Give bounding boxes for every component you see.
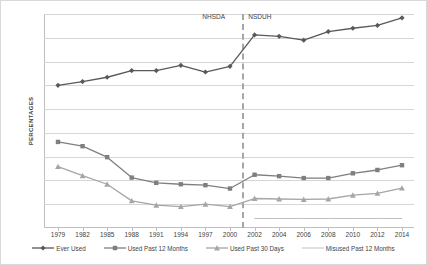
data-point-marker <box>375 168 379 172</box>
x-tick-label: 1982 <box>75 231 89 238</box>
data-point-marker <box>350 26 355 31</box>
data-point-marker <box>399 15 404 20</box>
data-point-marker <box>105 155 109 159</box>
chart-legend: Ever UsedUsed Past 12 MonthsUsed Past 30… <box>1 244 426 252</box>
data-point-marker <box>203 183 207 187</box>
legend-swatch <box>32 244 54 252</box>
x-tick-label: 1979 <box>51 231 65 238</box>
data-point-marker <box>55 83 60 88</box>
data-point-marker <box>203 69 208 74</box>
legend-label: Misused Past 12 Months <box>326 245 395 252</box>
x-tick-label: 2010 <box>346 231 360 238</box>
data-point-marker <box>154 68 159 73</box>
data-point-marker <box>326 176 330 180</box>
data-point-marker <box>154 181 158 185</box>
data-point-marker <box>105 75 110 80</box>
data-point-marker <box>277 34 282 39</box>
legend-item-misused-past-12-months[interactable]: Misused Past 12 Months <box>302 244 395 252</box>
legend-swatch <box>302 244 324 252</box>
x-tick-label: 1985 <box>100 231 114 238</box>
series-line <box>58 18 402 86</box>
chart-figure: PERCENTAGES 051015202530354045 197919821… <box>0 0 427 265</box>
data-point-marker <box>375 23 380 28</box>
x-tick-label: 1991 <box>149 231 163 238</box>
y-axis-title: PERCENTAGES <box>28 97 34 146</box>
series-ever-used <box>55 15 404 88</box>
x-tick-label: 2002 <box>247 231 261 238</box>
legend-swatch <box>104 244 126 252</box>
data-point-marker <box>400 163 404 167</box>
series-line <box>58 142 402 189</box>
x-tick-label: 1994 <box>174 231 188 238</box>
legend-item-used-past-30-days[interactable]: Used Past 30 Days <box>206 244 284 252</box>
x-tick-label: 2006 <box>296 231 310 238</box>
x-tick-label: 2008 <box>321 231 335 238</box>
x-tick-label: 2012 <box>370 231 384 238</box>
data-point-marker <box>112 246 116 250</box>
data-point-marker <box>56 140 60 144</box>
data-point-marker <box>80 144 84 148</box>
x-tick-label: 1997 <box>198 231 212 238</box>
data-point-marker <box>326 29 331 34</box>
data-point-marker <box>252 173 256 177</box>
data-point-marker <box>129 68 134 73</box>
x-tick-label: 1988 <box>124 231 138 238</box>
x-tick-label: 2004 <box>272 231 286 238</box>
data-point-marker <box>178 63 183 68</box>
legend-label: Used Past 12 Months <box>128 245 188 252</box>
data-point-marker <box>302 176 306 180</box>
data-point-marker <box>351 171 355 175</box>
legend-label: Used Past 30 Days <box>230 245 284 252</box>
data-point-marker <box>55 164 61 169</box>
data-point-marker <box>301 38 306 43</box>
x-tick-label: 2014 <box>395 231 409 238</box>
data-point-marker <box>228 186 232 190</box>
legend-item-ever-used[interactable]: Ever Used <box>32 244 85 252</box>
x-tick-label: 2000 <box>223 231 237 238</box>
data-point-marker <box>277 174 281 178</box>
data-point-marker <box>80 79 85 84</box>
legend-label: Ever Used <box>56 245 85 252</box>
legend-item-used-past-12-months[interactable]: Used Past 12 Months <box>104 244 188 252</box>
plot-area: PERCENTAGES 051015202530354045 197919821… <box>44 14 414 228</box>
legend-swatch <box>206 244 228 252</box>
data-point-marker <box>41 245 46 250</box>
series-layer <box>44 14 414 228</box>
data-point-marker <box>130 175 134 179</box>
data-point-marker <box>179 182 183 186</box>
